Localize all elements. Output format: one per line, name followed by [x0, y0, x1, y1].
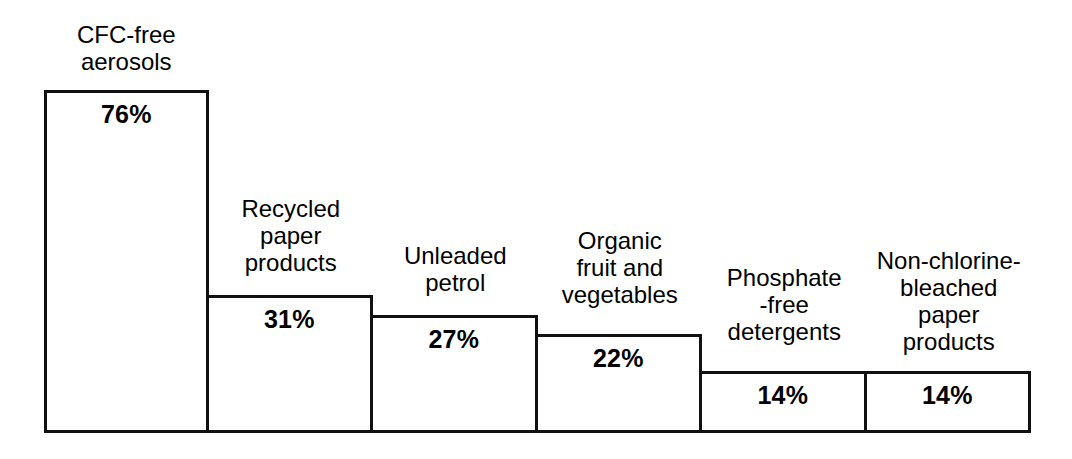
bar-column: Unleaded petrol27%	[373, 0, 538, 433]
bar-value-label: 14%	[867, 382, 1029, 408]
bar-category-label: CFC-free aerosols	[38, 22, 215, 76]
bar-column: CFC-free aerosols76%	[44, 0, 209, 433]
bar-chart: CFC-free aerosols76%Recycled paper produ…	[0, 0, 1072, 459]
bar-column: Non-chlorine- bleached paper products14%	[867, 0, 1032, 433]
bar-category-label: Non-chlorine- bleached paper products	[861, 248, 1038, 356]
bar: 22%	[535, 334, 703, 433]
bar-column: Phosphate -free detergents14%	[702, 0, 867, 433]
bar-category-label: Organic fruit and vegetables	[532, 228, 709, 309]
bar-category-label: Recycled paper products	[203, 196, 380, 277]
bar-category-label: Unleaded petrol	[367, 243, 544, 297]
bar-value-label: 76%	[47, 101, 206, 127]
bar-column: Recycled paper products31%	[209, 0, 374, 433]
bar: 14%	[699, 371, 867, 433]
bar: 76%	[44, 90, 209, 433]
bar: 27%	[370, 315, 538, 433]
bar-value-label: 31%	[209, 306, 371, 332]
bar-column: Organic fruit and vegetables22%	[538, 0, 703, 433]
plot-area: CFC-free aerosols76%Recycled paper produ…	[44, 0, 1031, 433]
bar-value-label: 27%	[373, 326, 535, 352]
bar: 14%	[864, 371, 1032, 433]
bar-value-label: 14%	[702, 382, 864, 408]
bar: 31%	[206, 295, 374, 433]
bar-category-label: Phosphate -free detergents	[696, 265, 873, 346]
bar-value-label: 22%	[538, 345, 700, 371]
